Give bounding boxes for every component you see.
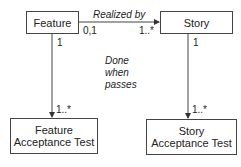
realized-by-source-multiplicity: 0,1 (83, 25, 97, 36)
realized-by-target-multiplicity: 1..* (139, 25, 154, 36)
feature-acceptance-test-node: Feature Acceptance Test (10, 118, 98, 154)
feature-to-test-target-multiplicity: 1..* (56, 104, 71, 115)
feature-test-line2: Acceptance Test (14, 136, 95, 148)
story-test-line1: Story (179, 125, 205, 137)
story-to-test-target-multiplicity: 1..* (192, 104, 207, 115)
feature-test-line1: Feature (35, 124, 73, 136)
realized-by-label: Realized by (93, 9, 145, 20)
note-line1: Done (105, 55, 137, 67)
story-to-test-source-multiplicity: 1 (193, 37, 199, 48)
done-when-passes-note: Done when passes (105, 55, 137, 91)
feature-to-test-source-multiplicity: 1 (57, 37, 63, 48)
note-line3: passes (105, 79, 137, 91)
story-acceptance-test-node: Story Acceptance Test (146, 119, 237, 155)
feature-label: Feature (34, 17, 72, 29)
story-test-line2: Acceptance Test (151, 137, 232, 149)
story-node: Story (160, 11, 233, 34)
story-label: Story (184, 17, 210, 29)
note-line2: when (105, 67, 137, 79)
feature-node: Feature (26, 11, 79, 34)
